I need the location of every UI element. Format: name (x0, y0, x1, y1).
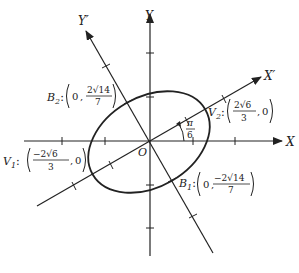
vertex-v1-label: V1: −2√6 3 , 0 (3, 148, 86, 172)
svg-text:π: π (186, 118, 194, 128)
svg-text:2√6: 2√6 (234, 100, 251, 110)
x-prime-axis-label: X′ (263, 69, 276, 83)
angle-arc (179, 124, 184, 141)
vertex-b2-label: B2: 0 , 2√14 7 (46, 84, 116, 108)
svg-text:,: , (257, 106, 260, 117)
svg-text:3: 3 (241, 113, 247, 123)
y-axis-label: Y (145, 9, 154, 23)
svg-text:V1:: V1: (3, 155, 20, 170)
y-prime-axis-label: Y′ (78, 14, 89, 28)
svg-text:V2:: V2: (208, 106, 225, 121)
svg-text:7: 7 (228, 185, 234, 195)
svg-text:0: 0 (72, 91, 78, 102)
svg-text:0: 0 (75, 155, 81, 166)
vertex-b1-label: B1: 0 , −2√14 7 (178, 172, 254, 196)
y-axis (146, 14, 154, 256)
svg-text:−2√14: −2√14 (214, 173, 245, 183)
svg-text:B2:: B2: (46, 91, 64, 106)
svg-text:2√14: 2√14 (87, 85, 110, 95)
svg-text:7: 7 (95, 97, 101, 107)
svg-text:−2√6: −2√6 (33, 149, 58, 159)
svg-text:0: 0 (262, 106, 268, 117)
svg-text:3: 3 (48, 162, 54, 172)
ellipse-diagram: X Y X′ Y′ O π 6 V2: 2√6 (0, 0, 299, 273)
svg-text:,: , (80, 91, 83, 102)
origin-label: O (138, 146, 147, 159)
angle-label: π 6 (186, 118, 195, 140)
x-axis-label: X (285, 135, 295, 149)
svg-text:B1:: B1: (178, 177, 196, 192)
svg-text:0: 0 (203, 179, 209, 190)
svg-text:,: , (70, 155, 73, 166)
x-axis (24, 137, 282, 145)
svg-text:6: 6 (187, 130, 193, 140)
